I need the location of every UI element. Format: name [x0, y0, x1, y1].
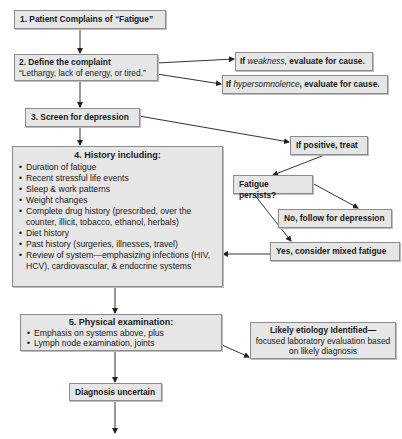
diagnosis-uncertain-label: Diagnosis uncertain [75, 387, 155, 397]
step2-title: 2. Define the complaint [19, 57, 153, 68]
yes-mixed-label: Yes, consider mixed fatigue [276, 246, 386, 256]
step5-item: Lymph node examination, joints [27, 338, 215, 349]
no-follow-label: No, follow for depression [284, 213, 385, 223]
step3-box: 3. Screen for depression [25, 108, 140, 127]
step4-item: Sleep & work patterns [19, 184, 216, 195]
no-follow-box: No, follow for depression [278, 209, 392, 228]
step4-item: Diet history [19, 228, 216, 239]
step2-subtitle: “Lethargy, lack of energy, or tired.” [19, 68, 153, 79]
weakness-box: If weakness, evaluate for cause. [235, 52, 373, 71]
likely-etiology-body: focused laboratory evaluation based on l… [255, 336, 391, 357]
step3-label: 3. Screen for depression [31, 112, 129, 122]
hypersomnolence-term: hypersomnolence [233, 79, 299, 89]
step1-box: 1. Patient Complains of “Fatigue” [14, 10, 166, 29]
fatigue-persists-box: Fatigue persists? [233, 175, 313, 194]
step5-list: Emphasis on systems above, plus Lymph no… [27, 328, 215, 349]
hypersomnolence-suffix: , evaluate for cause. [300, 79, 380, 89]
hypersomnolence-box: If hypersomnolence, evaluate for cause. [222, 75, 388, 94]
step4-box: 4. History including: Duration of fatigu… [12, 146, 223, 287]
step4-title: 4. History including: [19, 150, 216, 161]
yes-mixed-box: Yes, consider mixed fatigue [270, 242, 400, 261]
weakness-suffix: evaluate for cause. [287, 56, 365, 66]
step4-item: Duration of fatigue [19, 162, 216, 173]
if-positive-label: If positive, treat [296, 140, 358, 150]
step4-item: Past history (surgeries, illnesses, trav… [19, 239, 216, 250]
likely-etiology-box: Likely etiology Identified— focused labo… [250, 322, 396, 359]
step1-label: 1. Patient Complains of “Fatigue” [20, 14, 153, 24]
fatigue-persists-label: Fatigue persists? [239, 179, 276, 200]
step5-box: 5. Physical examination: Emphasis on sys… [20, 314, 222, 351]
step2-box: 2. Define the complaint “Lethargy, lack … [14, 54, 158, 81]
step4-item: Recent stressful life events [19, 173, 216, 184]
step5-item: Emphasis on systems above, plus [27, 328, 215, 339]
step5-title: 5. Physical examination: [27, 317, 215, 328]
step4-item: Review of system—emphasizing infections … [19, 250, 216, 272]
step4-item: Weight changes [19, 195, 216, 206]
step4-list: Duration of fatigue Recent stressful lif… [19, 162, 216, 272]
step4-item: Complete drug history (prescribed, over … [19, 206, 216, 228]
likely-etiology-title: Likely etiology Identified— [255, 325, 391, 336]
diagnosis-uncertain-box: Diagnosis uncertain [69, 383, 162, 401]
weakness-term: weakness, [247, 56, 287, 66]
if-positive-box: If positive, treat [290, 136, 368, 155]
